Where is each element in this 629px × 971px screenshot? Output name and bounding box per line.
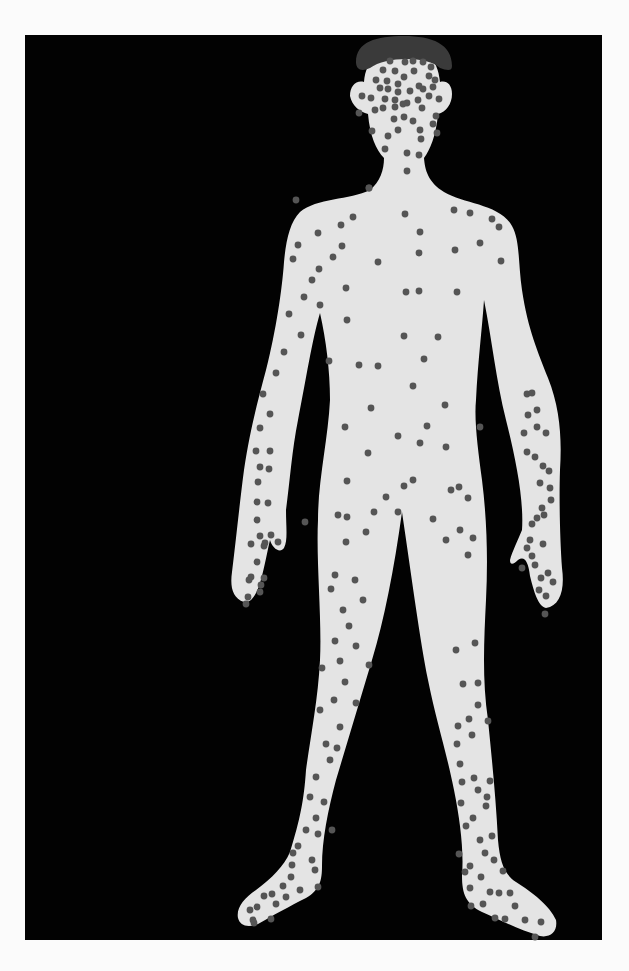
skin-spot-legs xyxy=(342,679,349,686)
skin-spot-head xyxy=(432,77,439,84)
skin-spot-right-arm xyxy=(545,570,552,577)
skin-spot-legs xyxy=(475,702,482,709)
skin-spot-legs xyxy=(430,516,437,523)
skin-spot-right-arm xyxy=(550,579,557,586)
skin-spot-legs xyxy=(484,794,491,801)
skin-spot-head xyxy=(428,64,435,71)
skin-spot-legs xyxy=(507,890,514,897)
skin-spot-legs xyxy=(334,745,341,752)
skin-spot-legs xyxy=(410,477,417,484)
skin-spot-torso xyxy=(410,383,417,390)
skin-spot-legs xyxy=(315,831,322,838)
skin-spot-legs xyxy=(482,850,489,857)
skin-spot-left-arm xyxy=(261,575,268,582)
skin-spot-head xyxy=(419,105,426,112)
skin-spot-legs xyxy=(323,741,330,748)
skin-spot-right-arm xyxy=(519,565,526,572)
skin-spot-right-arm xyxy=(547,485,554,492)
skin-spot-head xyxy=(415,97,422,104)
skin-spot-legs xyxy=(483,803,490,810)
skin-spot-legs xyxy=(329,827,336,834)
skin-spot-legs xyxy=(332,572,339,579)
skin-spot-left-arm xyxy=(243,601,250,608)
skin-spot-legs xyxy=(471,775,478,782)
skin-spot-head xyxy=(426,93,433,100)
skin-spot-legs xyxy=(280,883,287,890)
skin-spot-torso xyxy=(356,362,363,369)
skin-spot-head xyxy=(392,68,399,75)
skin-spot-legs xyxy=(343,539,350,546)
skin-spot-legs xyxy=(340,607,347,614)
skin-spot-legs xyxy=(254,904,261,911)
skin-spot-right-arm xyxy=(521,430,528,437)
skin-spot-legs xyxy=(496,890,503,897)
skin-spot-right-arm xyxy=(543,593,550,600)
skin-spot-legs xyxy=(538,919,545,926)
skin-spot-right-arm xyxy=(524,449,531,456)
skin-spot-head xyxy=(392,97,399,104)
skin-spot-legs xyxy=(313,815,320,822)
skin-spot-right-arm xyxy=(529,521,536,528)
skin-spot-legs xyxy=(459,779,466,786)
skin-spot-torso xyxy=(371,509,378,516)
skin-spot-head xyxy=(430,121,437,128)
skin-spot-legs xyxy=(297,887,304,894)
skin-spot-torso xyxy=(368,405,375,412)
skin-spot-right-arm xyxy=(541,512,548,519)
skin-spot-legs xyxy=(469,732,476,739)
skin-spot-legs xyxy=(289,862,296,869)
skin-spot-legs xyxy=(283,894,290,901)
skin-spot-legs xyxy=(328,586,335,593)
skin-spot-torso xyxy=(295,242,302,249)
skin-spot-head xyxy=(416,152,423,159)
skin-spot-head xyxy=(373,77,380,84)
skin-spot-left-arm xyxy=(248,541,255,548)
skin-spot-torso xyxy=(496,224,503,231)
skin-spot-torso xyxy=(375,363,382,370)
skin-spot-legs xyxy=(290,850,297,857)
skin-spot-legs xyxy=(466,716,473,723)
skin-spot-legs xyxy=(502,916,509,923)
skin-spot-torso xyxy=(302,519,309,526)
skin-spot-torso xyxy=(448,487,455,494)
skin-spot-torso xyxy=(335,512,342,519)
skin-spot-torso xyxy=(309,277,316,284)
skin-spot-torso xyxy=(416,288,423,295)
skin-spot-head xyxy=(387,58,394,65)
skin-spot-right-arm xyxy=(540,463,547,470)
skin-spot-head xyxy=(368,95,375,102)
skin-spot-legs xyxy=(532,934,539,941)
skin-spot-torso xyxy=(442,402,449,409)
skin-spot-head xyxy=(382,96,389,103)
skin-spot-torso xyxy=(344,478,351,485)
skin-spot-legs xyxy=(383,494,390,501)
skin-spot-legs xyxy=(353,700,360,707)
skin-spot-torso xyxy=(338,222,345,229)
skin-spot-torso xyxy=(451,207,458,214)
skin-spot-legs xyxy=(480,901,487,908)
skin-spot-torso xyxy=(489,216,496,223)
skin-spot-legs xyxy=(500,868,507,875)
skin-spot-head xyxy=(359,93,366,100)
skin-spot-legs xyxy=(363,529,370,536)
skin-spot-torso xyxy=(330,254,337,261)
skin-spot-left-arm xyxy=(257,464,264,471)
skin-spot-left-arm xyxy=(257,425,264,432)
skin-spot-legs xyxy=(352,577,359,584)
skin-spot-torso xyxy=(467,210,474,217)
skin-spot-legs xyxy=(478,874,485,881)
skin-spot-torso xyxy=(403,289,410,296)
skin-spot-head xyxy=(356,110,363,117)
skin-spot-left-arm xyxy=(257,533,264,540)
skin-spot-legs xyxy=(273,901,280,908)
skin-spot-right-arm xyxy=(529,553,536,560)
skin-spot-left-arm xyxy=(286,311,293,318)
skin-spot-torso xyxy=(421,356,428,363)
skin-spot-legs xyxy=(485,718,492,725)
skin-spot-head xyxy=(402,59,409,66)
skin-spot-left-arm xyxy=(268,532,275,539)
skin-spot-torso xyxy=(477,424,484,431)
skin-spot-right-arm xyxy=(524,545,531,552)
skin-spot-legs xyxy=(463,823,470,830)
skin-spot-legs xyxy=(470,815,477,822)
